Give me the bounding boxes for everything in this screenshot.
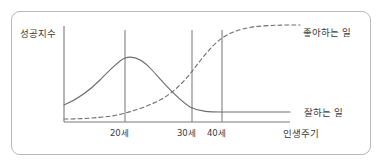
chart-figure: 성공지수 인생주기 좋아하는 일 잘하는 일 20세 30세 40세	[0, 0, 384, 168]
series-label-like-work: 좋아하는 일	[303, 27, 350, 38]
series-label-good-work: 잘하는 일	[304, 107, 343, 118]
x-axis-tick-30: 30세	[177, 128, 196, 138]
x-axis-tick-40: 40세	[207, 128, 226, 138]
x-axis-tick-20: 20세	[110, 128, 129, 138]
series-line-good-work	[64, 57, 290, 112]
series-line-like-work	[64, 25, 300, 119]
chart-plot-area	[0, 0, 384, 168]
x-axis-label: 인생주기	[283, 128, 319, 139]
y-axis-label: 성공지수	[20, 28, 56, 39]
